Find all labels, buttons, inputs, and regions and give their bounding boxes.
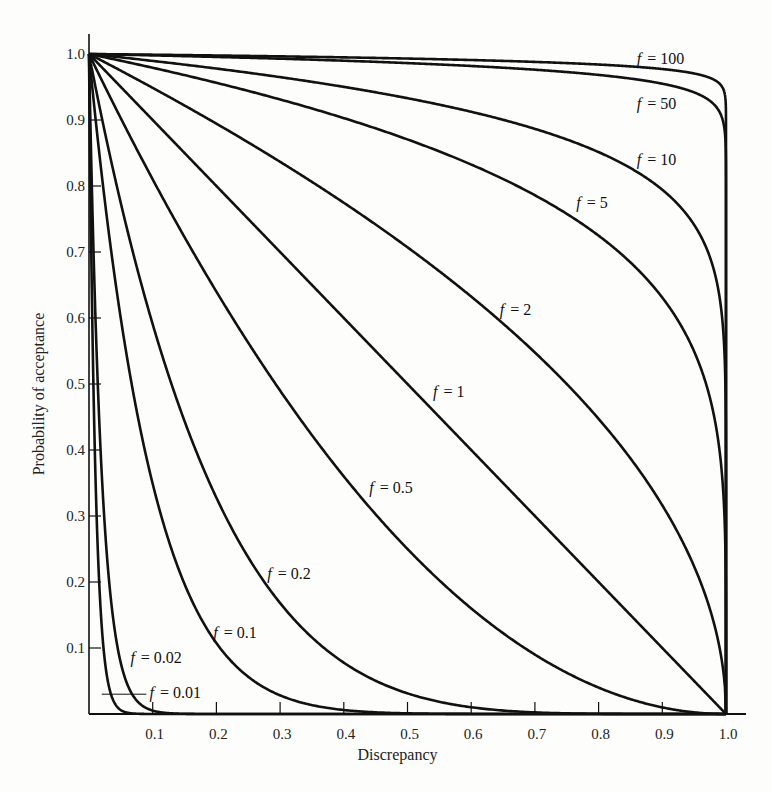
curve-label-value: = 5	[587, 194, 608, 211]
curve-label: f= 0.1	[213, 624, 256, 642]
curve-label: f= 100	[637, 50, 684, 68]
curve-label: f= 0.01	[150, 684, 201, 702]
curve-label-symbol: f	[576, 194, 583, 212]
curve-label-value: = 10	[647, 151, 676, 168]
curve-label: f= 0.2	[267, 565, 310, 583]
axes	[89, 34, 746, 714]
curve-label-value: = 0.01	[160, 684, 201, 701]
curve-label-symbol: f	[267, 565, 274, 583]
curve-label-value: = 0.02	[141, 649, 182, 666]
acceptance-probability-chart: 0.10.20.30.40.50.60.70.80.91.0 0.10.20.3…	[0, 0, 772, 792]
y-tick-label: 0.8	[66, 178, 85, 194]
x-axis-label: Discrepancy	[358, 746, 438, 764]
x-tick-label: 0.1	[145, 726, 164, 742]
y-tick-label: 0.4	[66, 442, 85, 458]
curve-label: f= 2	[500, 301, 531, 319]
curve-label: f= 0.02	[130, 649, 181, 667]
curve-label-symbol: f	[213, 624, 220, 642]
y-tick-label: 0.5	[66, 376, 85, 392]
curve-label-symbol: f	[433, 383, 440, 401]
x-tick-label: 0.5	[400, 726, 419, 742]
curve-label-value: = 0.5	[380, 479, 413, 496]
curve-label-symbol: f	[130, 649, 137, 667]
curve-label-symbol: f	[150, 684, 157, 702]
x-tick-label: 0.3	[273, 726, 292, 742]
curve-label-symbol: f	[637, 151, 644, 169]
x-tick-label: 0.4	[336, 726, 355, 742]
curve-label: f= 0.5	[369, 479, 412, 497]
x-ticks: 0.10.20.30.40.50.60.70.80.91.0	[145, 702, 737, 742]
curve-label: f= 50	[637, 95, 676, 113]
curve-label-value: = 0.2	[278, 565, 311, 582]
curve-label: f= 10	[637, 151, 676, 169]
y-tick-label: 0.6	[66, 310, 85, 326]
curve-label-symbol: f	[637, 95, 644, 113]
y-axis-label: Probability of acceptance	[30, 313, 48, 476]
curve-label-symbol: f	[369, 479, 376, 497]
y-tick-label: 0.2	[66, 574, 85, 590]
curve-label-value: = 1	[443, 383, 464, 400]
curve-label-value: = 0.1	[224, 624, 257, 641]
curve-label-value: = 100	[647, 50, 684, 67]
curve-label-value: = 50	[647, 95, 676, 112]
curve-label-symbol: f	[637, 50, 644, 68]
x-tick-label: 0.6	[464, 726, 483, 742]
y-tick-label: 0.1	[66, 640, 85, 656]
curve-label-symbol: f	[500, 301, 507, 319]
y-tick-label: 0.9	[66, 112, 85, 128]
x-tick-label: 0.2	[209, 726, 228, 742]
x-tick-label: 1.0	[719, 726, 738, 742]
x-tick-label: 0.9	[655, 726, 674, 742]
y-tick-label: 0.3	[66, 508, 85, 524]
y-tick-label: 1.0	[66, 46, 85, 62]
curve-labels: f= 100f= 50f= 10f= 5f= 2f= 1f= 0.5f= 0.2…	[102, 50, 685, 702]
y-tick-label: 0.7	[66, 244, 85, 260]
curve-label-value: = 2	[510, 301, 531, 318]
curve-label: f= 5	[576, 194, 607, 212]
x-tick-label: 0.8	[591, 726, 610, 742]
curve-f-1	[89, 54, 726, 714]
x-tick-label: 0.7	[528, 726, 547, 742]
curves	[89, 54, 726, 714]
curve-label: f= 1	[433, 383, 464, 401]
